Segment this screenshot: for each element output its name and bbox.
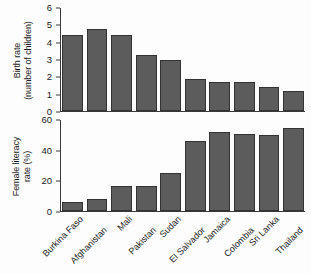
y-tick-mark: [56, 150, 60, 151]
y-tick-label: 40: [41, 146, 52, 156]
bar: [111, 35, 132, 111]
bar: [259, 135, 280, 211]
y-tick-label: 0: [47, 207, 52, 217]
bar: [209, 82, 230, 111]
bar: [209, 132, 230, 211]
y-tick-label: 60: [41, 115, 52, 125]
bar: [283, 91, 304, 111]
bar: [160, 173, 181, 211]
x-tick-label: Jamaica: [201, 214, 232, 245]
chart-panel-female-literacy: Female literacy rate (%) 0204060: [0, 120, 311, 212]
bar: [136, 55, 157, 111]
y-tick-label: 5: [47, 21, 52, 31]
y-axis-title-line2: (number of children): [22, 21, 33, 100]
bar: [185, 141, 206, 211]
y-tick-label: 4: [47, 38, 52, 48]
bar: [136, 186, 157, 211]
bar: [62, 202, 83, 211]
y-tick-label: 3: [47, 55, 52, 65]
bar: [87, 29, 108, 111]
y-tick-mark: [56, 112, 60, 113]
y-tick-label: 1: [47, 90, 52, 100]
y-tick-mark: [56, 60, 60, 61]
y-axis-title-line2: rate (%): [22, 136, 33, 196]
bar-series-female-literacy: [61, 120, 305, 211]
y-axis-title-birth-rate: Birth rate (number of children): [0, 8, 44, 112]
bar-series-birth-rate: [61, 8, 305, 111]
bar: [185, 79, 206, 111]
x-tick-label: El Salvador: [168, 225, 208, 265]
y-tick-label: 2: [47, 73, 52, 83]
plot-area-birth-rate: [60, 8, 305, 112]
y-tick-mark: [56, 181, 60, 182]
chart-panel-birth-rate: Birth rate (number of children) 0123456: [0, 8, 311, 112]
bar: [87, 199, 108, 211]
y-axis-ticks-birth-rate: 0123456: [40, 8, 56, 112]
bar: [111, 186, 132, 211]
y-axis-ticks-female-literacy: 0204060: [40, 120, 56, 212]
x-tick-label: Pakistan: [127, 225, 158, 256]
y-tick-mark: [56, 42, 60, 43]
x-tick-label: Sudan: [157, 214, 182, 239]
bar: [234, 134, 255, 211]
bar: [283, 128, 304, 211]
y-tick-mark: [56, 120, 60, 121]
x-tick-label: Mali: [115, 214, 134, 233]
plot-area-female-literacy: [60, 120, 305, 212]
y-axis-title-female-literacy: Female literacy rate (%): [0, 120, 44, 212]
figure: Birth rate (number of children) 0123456 …: [0, 0, 311, 274]
y-tick-mark: [56, 94, 60, 95]
y-axis-title-line1: Female literacy: [12, 136, 23, 196]
x-axis-category-labels: Burkina FasoAfghanistanMaliPakistanSudan…: [60, 212, 305, 274]
y-tick-label: 20: [41, 177, 52, 187]
y-tick-mark: [56, 25, 60, 26]
x-tick-label: Thailand: [274, 225, 305, 256]
bar: [160, 60, 181, 112]
y-axis-title-line1: Birth rate: [12, 21, 23, 100]
bar: [259, 87, 280, 111]
y-tick-mark: [56, 77, 60, 78]
bar: [234, 82, 255, 111]
y-tick-mark: [56, 8, 60, 9]
bar: [62, 35, 83, 111]
y-tick-label: 6: [47, 3, 52, 13]
